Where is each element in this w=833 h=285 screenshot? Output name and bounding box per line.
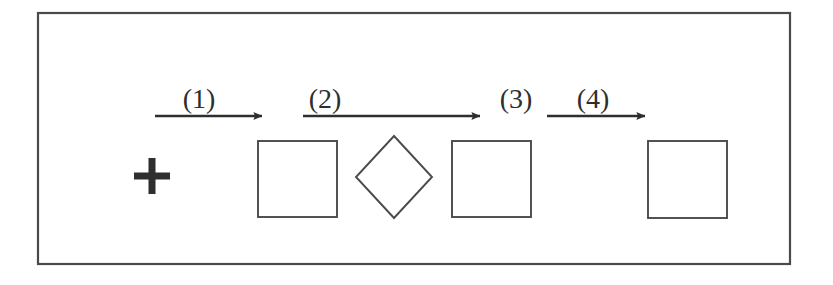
- square-3: [648, 141, 727, 218]
- step-label-1: (1): [183, 83, 216, 114]
- fixation-cross-icon: [134, 158, 170, 194]
- stimuli-group: [134, 136, 727, 218]
- square-1: [258, 141, 337, 217]
- square-2: [452, 141, 531, 217]
- step-label-2: (2): [309, 83, 342, 114]
- diamond: [356, 136, 432, 218]
- step-label-3: (3): [500, 83, 533, 114]
- step-label-group: (1) (2) (3) (4): [183, 83, 610, 114]
- figure-container: (1) (2) (3) (4): [0, 0, 833, 285]
- step-label-4: (4): [577, 83, 610, 114]
- figure-canvas: (1) (2) (3) (4): [0, 0, 833, 285]
- figure-frame: [38, 13, 790, 264]
